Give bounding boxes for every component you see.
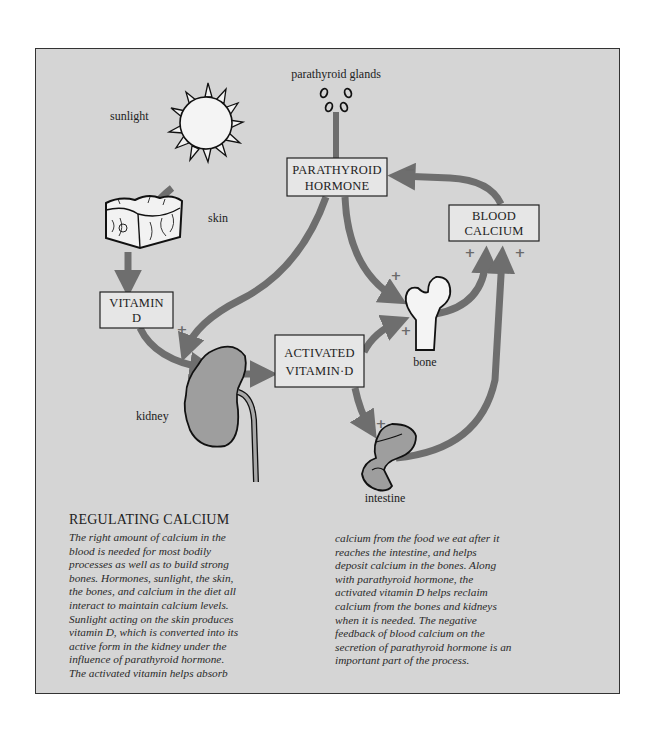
caption-title: REGULATING CALCIUM bbox=[69, 512, 589, 528]
caption-line: vitamin D, which is converted into its bbox=[69, 626, 309, 640]
sign-plus-blood-calcium-left: + bbox=[465, 245, 476, 260]
caption-line: activated vitamin D helps reclaim bbox=[335, 586, 575, 600]
arrow-pth-to-bone bbox=[345, 197, 396, 298]
box-parathyroid-hormone: PARATHYROID HORMONE bbox=[287, 158, 387, 196]
caption-line: calcium from the food we eat after it bbox=[335, 532, 575, 546]
box-vitamin-d-line2: D bbox=[132, 311, 141, 325]
label-parathyroid-glands: parathyroid glands bbox=[291, 67, 381, 81]
arrow-activated-d-to-intestine bbox=[355, 388, 370, 428]
caption-line: The right amount of calcium in the bbox=[69, 531, 309, 545]
caption-line: interact to maintain calcium levels. bbox=[69, 599, 309, 613]
caption-line: calcium from the bones and kidneys bbox=[335, 600, 575, 614]
caption-line: when it is needed. The negative bbox=[335, 614, 575, 628]
box-activated-vitamin-d: ACTIVATED VITAMIN·D bbox=[275, 335, 364, 387]
skin-icon bbox=[106, 196, 182, 248]
box-blood-calcium: BLOOD CALCIUM bbox=[449, 205, 539, 241]
label-intestine: intestine bbox=[365, 491, 406, 505]
sun-icon bbox=[169, 83, 243, 162]
sign-minus-feedback: − bbox=[405, 162, 416, 177]
label-bone: bone bbox=[413, 355, 436, 369]
caption-line: deposit calcium in the bones. Along bbox=[335, 559, 575, 573]
box-vitamin-d-line1: VITAMIN bbox=[109, 296, 164, 310]
caption-line: secretion of parathyroid hormone is an bbox=[335, 641, 575, 655]
caption-line: reaches the intestine, and helps bbox=[335, 546, 575, 560]
sign-plus-blood-calcium-right: + bbox=[515, 245, 526, 260]
caption: REGULATING CALCIUM The right amount of c… bbox=[69, 512, 589, 681]
sign-plus-vitamin-d: + bbox=[177, 322, 188, 337]
arrow-activated-d-to-bone bbox=[364, 322, 398, 352]
box-activated-vitamin-d-line1: ACTIVATED bbox=[284, 346, 354, 360]
parathyroid-glands-icon bbox=[319, 88, 352, 113]
sign-plus-activated-d-bone: + bbox=[401, 323, 412, 338]
caption-line: active form in the kidney under the bbox=[69, 640, 309, 654]
caption-line: influence of parathyroid hormone. bbox=[69, 653, 309, 667]
caption-column-2: calcium from the food we eat after it re… bbox=[335, 531, 575, 681]
box-vitamin-d: VITAMIN D bbox=[100, 292, 173, 328]
caption-line: the bones, and calcium in the diet all bbox=[69, 585, 309, 599]
box-parathyroid-hormone-line2: HORMONE bbox=[305, 179, 370, 193]
caption-line: The activated vitamin helps absorb bbox=[69, 667, 309, 681]
box-blood-calcium-line2: CALCIUM bbox=[464, 224, 523, 238]
label-sunlight: sunlight bbox=[110, 109, 149, 123]
box-parathyroid-hormone-line1: PARATHYROID bbox=[292, 163, 381, 177]
caption-line: feedback of blood calcium on the bbox=[335, 627, 575, 641]
caption-column-1: The right amount of calcium in the blood… bbox=[69, 531, 309, 681]
caption-line: bones. Hormones, sunlight, the skin, bbox=[69, 572, 309, 586]
caption-line: important part of the process. bbox=[335, 654, 575, 668]
label-kidney: kidney bbox=[136, 409, 169, 423]
sign-plus-pth-bone: + bbox=[391, 268, 402, 283]
caption-line: with parathyroid hormone, the bbox=[335, 573, 575, 587]
caption-line: blood is needed for most bodily bbox=[69, 545, 309, 559]
arrow-pth-to-kidney bbox=[186, 197, 326, 350]
caption-line: processes as well as to build strong bbox=[69, 558, 309, 572]
box-blood-calcium-line1: BLOOD bbox=[472, 209, 516, 223]
sign-plus-intestine: + bbox=[376, 416, 387, 431]
caption-line: Sunlight acting on the skin produces bbox=[69, 613, 309, 627]
label-skin: skin bbox=[208, 211, 228, 225]
box-activated-vitamin-d-line2: VITAMIN·D bbox=[285, 364, 353, 378]
arrow-blood-calcium-to-pth bbox=[400, 176, 501, 204]
